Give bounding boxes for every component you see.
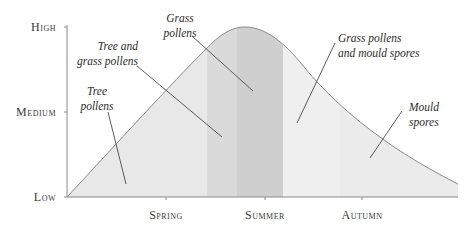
band-grass-mould: [283, 20, 340, 197]
band-grass: [237, 20, 283, 197]
annotation-grass-mould: Grass pollens and mould spores: [338, 31, 438, 61]
annotation-grass-pollens: Grass pollens: [160, 11, 200, 41]
y-label-low: Low: [0, 190, 56, 205]
x-label-spring: Spring: [126, 208, 206, 223]
x-label-summer: Summer: [225, 208, 305, 223]
band-tree-grass: [207, 20, 237, 197]
annotation-tree-pollens: Tree pollens: [76, 84, 118, 114]
x-label-autumn: Autumn: [322, 208, 402, 223]
annotation-tree-grass-pollens: Tree and grass pollens: [70, 39, 138, 69]
annotation-mould-spores: Mould spores: [409, 100, 459, 130]
y-label-high: High: [0, 20, 56, 35]
y-label-medium: Medium: [0, 105, 56, 120]
allergen-season-chart: High Medium Low Spring Summer Autumn Tre…: [0, 0, 474, 236]
